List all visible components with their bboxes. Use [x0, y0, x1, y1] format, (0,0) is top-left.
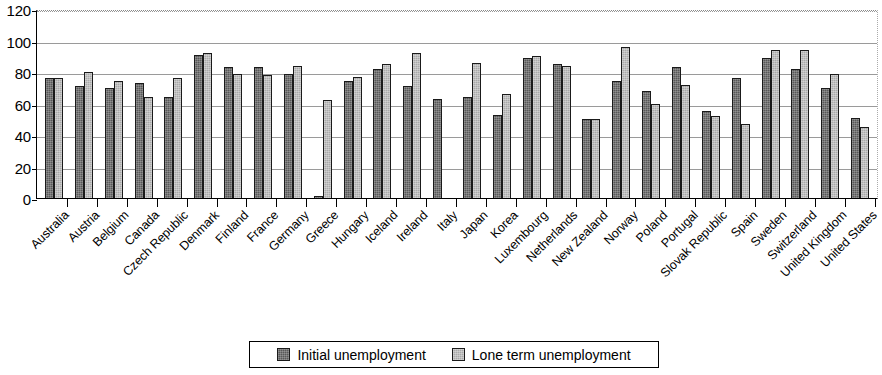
bar-long-term-unemployment	[203, 53, 212, 198]
bar-initial-unemployment	[433, 99, 442, 198]
bar-initial-unemployment	[582, 119, 591, 198]
legend-label: Lone term unemployment	[472, 347, 631, 363]
y-tick-label: 120	[0, 2, 31, 19]
legend-swatch-icon	[452, 348, 465, 361]
bar-long-term-unemployment	[532, 56, 541, 198]
bar-group	[39, 11, 69, 198]
bar-initial-unemployment	[194, 55, 203, 198]
bar-group	[845, 11, 875, 198]
bar-initial-unemployment	[672, 67, 681, 198]
bar-initial-unemployment	[523, 58, 532, 198]
x-label-cell: Austria	[68, 206, 98, 306]
bar-long-term-unemployment	[353, 77, 362, 198]
bar-initial-unemployment	[612, 81, 621, 198]
bar-initial-unemployment	[135, 83, 144, 198]
x-axis-category-label: Norway	[601, 208, 640, 247]
bar-initial-unemployment	[463, 97, 472, 198]
x-label-cell: Slovak Republic	[696, 206, 726, 306]
bar-long-term-unemployment	[293, 66, 302, 198]
bar-initial-unemployment	[254, 67, 263, 198]
bar-initial-unemployment	[493, 115, 502, 198]
bar-initial-unemployment	[403, 86, 412, 198]
x-label-cell: Norway	[607, 206, 637, 306]
bar-long-term-unemployment	[144, 97, 153, 198]
bar-initial-unemployment	[45, 78, 54, 198]
bar-initial-unemployment	[224, 67, 233, 198]
bar-long-term-unemployment	[54, 78, 63, 198]
bar-series-container	[37, 11, 877, 198]
bar-group	[367, 11, 397, 198]
bar-initial-unemployment	[791, 69, 800, 198]
x-label-cell: New Zealand	[577, 206, 607, 306]
bar-group	[308, 11, 338, 198]
bar-long-term-unemployment	[323, 100, 332, 198]
x-axis-labels: AustraliaAustriaBelgiumCanadaCzech Repub…	[36, 206, 878, 306]
bar-group	[278, 11, 308, 198]
x-label-cell: Belgium	[98, 206, 128, 306]
y-tick-mark-60	[32, 106, 37, 107]
bar-group	[188, 11, 218, 198]
bar-group	[427, 11, 457, 198]
x-label-cell: Australia	[38, 206, 68, 306]
bar-group	[636, 11, 666, 198]
y-tick-label: 0	[0, 191, 31, 208]
bar-group	[785, 11, 815, 198]
bar-group	[576, 11, 606, 198]
bar-long-term-unemployment	[591, 119, 600, 198]
y-tick-label: 40	[0, 128, 31, 145]
x-label-cell: Finland	[218, 206, 248, 306]
x-label-cell: France	[247, 206, 277, 306]
x-label-cell: Greece	[307, 206, 337, 306]
bar-group	[815, 11, 845, 198]
bar-initial-unemployment	[702, 111, 711, 198]
y-tick-mark-20	[32, 169, 37, 170]
bar-group	[547, 11, 577, 198]
x-axis-category-label: Finland	[213, 208, 251, 246]
bar-initial-unemployment	[642, 91, 651, 198]
x-axis-category-label: Iceland	[363, 208, 401, 246]
bar-initial-unemployment	[821, 88, 830, 198]
bar-group	[218, 11, 248, 198]
bar-long-term-unemployment	[84, 72, 93, 198]
bar-initial-unemployment	[75, 86, 84, 198]
y-tick-mark-40	[32, 137, 37, 138]
bar-group	[666, 11, 696, 198]
bar-group	[756, 11, 786, 198]
bar-long-term-unemployment	[173, 78, 182, 198]
x-label-cell: Ireland	[397, 206, 427, 306]
bar-long-term-unemployment	[651, 104, 660, 199]
bar-long-term-unemployment	[741, 124, 750, 198]
bar-long-term-unemployment	[621, 47, 630, 198]
x-label-cell: United States	[846, 206, 876, 306]
x-axis-category-label: Japan	[457, 208, 491, 242]
chart-page: 020406080100120 AustraliaAustriaBelgiumC…	[0, 0, 882, 375]
bar-group	[69, 11, 99, 198]
x-axis-category-label: Ireland	[394, 208, 430, 244]
bar-long-term-unemployment	[830, 74, 839, 198]
y-tick-label: 60	[0, 97, 31, 114]
legend-entry: Initial unemployment	[277, 347, 425, 363]
bar-initial-unemployment	[373, 69, 382, 198]
bar-group	[99, 11, 129, 198]
bar-initial-unemployment	[164, 97, 173, 198]
bar-group	[457, 11, 487, 198]
legend-swatch-icon	[277, 348, 290, 361]
bar-initial-unemployment	[284, 74, 293, 198]
bar-long-term-unemployment	[502, 94, 511, 198]
x-label-cell: Germany	[277, 206, 307, 306]
bar-long-term-unemployment	[382, 64, 391, 198]
bar-long-term-unemployment	[711, 116, 720, 198]
legend-label: Initial unemployment	[297, 347, 425, 363]
x-label-cell: Hungary	[337, 206, 367, 306]
bar-long-term-unemployment	[263, 75, 272, 198]
y-tick-mark-80	[32, 74, 37, 75]
bar-group	[696, 11, 726, 198]
bar-group	[129, 11, 159, 198]
y-tick-label: 80	[0, 65, 31, 82]
bar-initial-unemployment	[732, 78, 741, 198]
y-tick-mark-120	[32, 11, 37, 12]
y-tick-mark-100	[32, 43, 37, 44]
bar-initial-unemployment	[851, 118, 860, 198]
bar-group	[517, 11, 547, 198]
y-tick-label: 20	[0, 160, 31, 177]
